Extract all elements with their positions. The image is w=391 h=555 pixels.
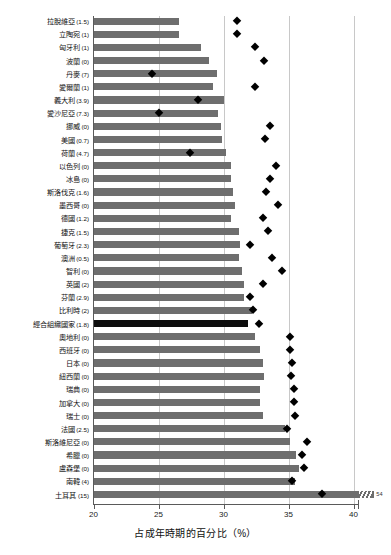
chart-row: 經合組織國家 (1.8) xyxy=(0,319,391,328)
bar xyxy=(94,333,255,340)
chart-row: 義大利 (3.9) xyxy=(0,95,391,104)
category-label: 土耳其 (15) xyxy=(55,490,89,499)
category-label: 愛沙尼亞 (7.3) xyxy=(47,109,89,118)
chart-row: 立陶宛 (1) xyxy=(0,30,391,39)
chart-row: 美國 (0.7) xyxy=(0,135,391,144)
diamond-marker xyxy=(289,385,298,394)
diamond-marker xyxy=(285,332,294,341)
chart-row: 奧地利 (0) xyxy=(0,332,391,341)
chart-row: 比利時 (2) xyxy=(0,306,391,315)
bar xyxy=(94,320,248,327)
chart-row: 加拿大 (0) xyxy=(0,398,391,407)
bar xyxy=(94,386,260,393)
category-label: 法國 (2.5) xyxy=(61,424,89,433)
bar xyxy=(94,57,209,64)
x-axis-end-cap xyxy=(358,500,359,509)
bar xyxy=(94,241,240,248)
diamond-marker xyxy=(254,319,263,328)
category-label: 南韓 (4) xyxy=(66,477,89,486)
bar xyxy=(94,438,290,445)
bar xyxy=(94,307,252,314)
chart-row: 西班牙 (0) xyxy=(0,345,391,354)
chart-row: 南韓 (4) xyxy=(0,477,391,486)
category-label: 日本 (0) xyxy=(66,359,89,368)
category-label: 智利 (0) xyxy=(66,267,89,276)
chart-row: 捷克 (1.5) xyxy=(0,227,391,236)
bar xyxy=(94,254,239,261)
bar xyxy=(94,294,244,301)
category-label: 波蘭 (0) xyxy=(66,56,89,65)
diamond-marker xyxy=(302,438,311,447)
chart-row: 芬蘭 (2.9) xyxy=(0,293,391,302)
chart-row: 瑞士 (0) xyxy=(0,411,391,420)
bar xyxy=(94,346,260,353)
chart-row: 土耳其 (15)54 xyxy=(0,490,391,499)
x-tick-25 xyxy=(159,504,160,509)
chart-row: 荷蘭 (4.7) xyxy=(0,148,391,157)
bar xyxy=(94,149,226,156)
diamond-marker xyxy=(250,82,259,91)
bar xyxy=(94,478,295,485)
chart-row: 瑞典 (0) xyxy=(0,385,391,394)
x-tick-label-40: 40 xyxy=(349,510,358,519)
category-label: 瑞典 (0) xyxy=(66,385,89,394)
category-label: 匈牙利 (1) xyxy=(59,43,89,52)
diamond-marker xyxy=(232,17,241,26)
diamond-marker xyxy=(266,175,275,184)
category-label: 冰島 (0) xyxy=(66,174,89,183)
diamond-marker xyxy=(285,345,294,354)
chart-row: 智利 (0) xyxy=(0,266,391,275)
bar xyxy=(94,399,260,406)
diamond-marker xyxy=(263,227,272,236)
chart-row: 盧森堡 (0) xyxy=(0,464,391,473)
chart-row: 波蘭 (0) xyxy=(0,56,391,65)
category-label: 比利時 (2) xyxy=(59,306,89,315)
diamond-marker xyxy=(245,293,254,302)
chart-row: 愛爾蘭 (1) xyxy=(0,82,391,91)
chart-row: 挪威 (0) xyxy=(0,122,391,131)
chart-row: 紐西蘭 (0) xyxy=(0,372,391,381)
bar xyxy=(94,412,263,419)
bar-chart: 2025303540 拉脫維亞 (1.5)立陶宛 (1)匈牙利 (1)波蘭 (0… xyxy=(0,0,391,555)
diamond-marker xyxy=(271,161,280,170)
category-label: 芬蘭 (2.9) xyxy=(61,293,89,302)
x-tick-30 xyxy=(224,504,225,509)
bar xyxy=(94,281,244,288)
category-label: 紐西蘭 (0) xyxy=(59,372,89,381)
category-label: 以色列 (0) xyxy=(59,161,89,170)
diamond-marker xyxy=(291,411,300,420)
category-label: 義大利 (3.9) xyxy=(54,96,89,105)
diamond-marker xyxy=(274,201,283,210)
bar xyxy=(94,175,231,182)
category-label: 經合組織國家 (1.8) xyxy=(33,319,89,328)
bar xyxy=(94,188,233,195)
chart-row: 葡萄牙 (2.3) xyxy=(0,240,391,249)
diamond-marker xyxy=(287,372,296,381)
chart-row: 希臘 (0) xyxy=(0,450,391,459)
diamond-marker xyxy=(267,253,276,262)
category-label: 愛爾蘭 (1) xyxy=(59,82,89,91)
bar xyxy=(94,267,242,274)
x-tick-35 xyxy=(289,504,290,509)
bar xyxy=(94,136,222,143)
chart-row: 德國 (1.2) xyxy=(0,214,391,223)
bar xyxy=(94,202,235,209)
category-label: 盧森堡 (0) xyxy=(59,464,89,473)
x-axis-line xyxy=(93,504,359,505)
category-label: 捷克 (1.5) xyxy=(61,227,89,236)
bar xyxy=(94,465,299,472)
category-label: 葡萄牙 (2.3) xyxy=(54,240,89,249)
diamond-marker xyxy=(278,267,287,276)
chart-row: 愛沙尼亞 (7.3) xyxy=(0,109,391,118)
category-label: 奧地利 (0) xyxy=(59,332,89,341)
chart-row: 以色列 (0) xyxy=(0,161,391,170)
bar xyxy=(94,491,374,498)
chart-row: 澳洲 (0.5) xyxy=(0,253,391,262)
category-label: 澳洲 (0.5) xyxy=(61,253,89,262)
chart-row: 墨西哥 (0) xyxy=(0,201,391,210)
chart-row: 匈牙利 (1) xyxy=(0,43,391,52)
category-label: 墨西哥 (0) xyxy=(59,201,89,210)
axis-break-value-label: 54 xyxy=(376,491,382,497)
chart-row: 斯洛伐克 (1.6) xyxy=(0,187,391,196)
bar xyxy=(94,96,224,103)
